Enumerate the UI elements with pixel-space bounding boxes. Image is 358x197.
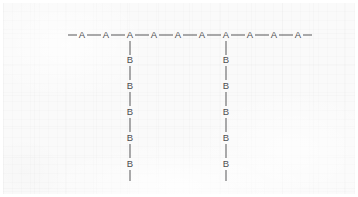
graft-unit-b: B xyxy=(219,55,233,65)
backbone-unit-a: A xyxy=(291,30,305,40)
graft-unit-b: B xyxy=(123,133,137,143)
graft-bond xyxy=(226,92,227,106)
diagram-canvas: A A A A A A A A A A B B B B B B B B B B xyxy=(0,0,358,197)
graft-unit-b: B xyxy=(123,81,137,91)
graft-unit-b: B xyxy=(219,107,233,117)
backbone-unit-a: A xyxy=(219,30,233,40)
backbone-unit-a: A xyxy=(171,30,185,40)
graft-bond xyxy=(130,118,131,132)
graft-unit-b: B xyxy=(123,107,137,117)
graft-terminal-bond xyxy=(130,170,131,181)
backbone-unit-a: A xyxy=(147,30,161,40)
graft-bond xyxy=(130,41,131,55)
graft-bond xyxy=(226,118,227,132)
graft-bond xyxy=(130,66,131,80)
polymer-structure: A A A A A A A A A A B B B B B B B B B B xyxy=(3,3,355,194)
graft-unit-b: B xyxy=(123,55,137,65)
backbone-unit-a: A xyxy=(267,30,281,40)
graft-unit-b: B xyxy=(219,133,233,143)
backbone-unit-a: A xyxy=(123,30,137,40)
graft-bond xyxy=(226,144,227,158)
graft-bond xyxy=(226,41,227,55)
graft-unit-b: B xyxy=(219,159,233,169)
backbone-unit-a: A xyxy=(195,30,209,40)
graft-bond xyxy=(226,66,227,80)
graft-terminal-bond xyxy=(226,170,227,181)
graft-unit-b: B xyxy=(219,81,233,91)
backbone-unit-a: A xyxy=(243,30,257,40)
graft-bond xyxy=(130,144,131,158)
graft-unit-b: B xyxy=(123,159,137,169)
backbone-unit-a: A xyxy=(75,30,89,40)
graft-bond xyxy=(130,92,131,106)
backbone-unit-a: A xyxy=(99,30,113,40)
